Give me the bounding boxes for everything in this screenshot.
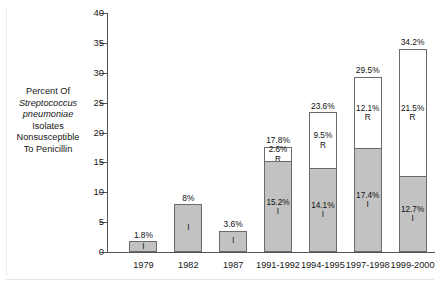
segment-percent: 12.7%	[400, 205, 426, 214]
segment-percent: 21.5%	[400, 103, 426, 112]
y-axis-title-line-4: Isolates	[2, 121, 94, 133]
chart-figure: Percent Of Streptococcus pneumoniae Isol…	[0, 0, 440, 282]
segment-code: R	[310, 140, 336, 149]
segment-percent: 9.5%	[310, 131, 336, 140]
segment-code: I	[175, 223, 201, 232]
y-axis-title-line-1: Percent Of	[2, 86, 94, 98]
y-tick-label: 0	[99, 246, 104, 257]
y-axis-title-line-6: To Penicillin	[2, 144, 94, 156]
bar-segment-i[interactable]: I	[129, 241, 157, 252]
segment-code: I	[220, 237, 246, 246]
y-axis-title: Percent Of Streptococcus pneumoniae Isol…	[2, 86, 94, 156]
segment-percent: 14.1%	[310, 200, 336, 209]
scan-edge-bottom	[6, 279, 434, 280]
segment-percent: 12.1%	[355, 103, 381, 112]
bar-1997-1998[interactable]: 29.5%12.1%R17.4%I	[354, 77, 382, 251]
y-axis-title-line-5: Nonsusceptible	[2, 132, 94, 144]
segment-value-label: 12.7%I	[400, 205, 426, 224]
bar-segment-i[interactable]: I	[174, 204, 202, 252]
y-tick-label: 15	[94, 156, 104, 167]
y-axis-title-line-3: pneumoniae	[2, 109, 94, 121]
bar-segment-i[interactable]: 14.1%I	[309, 168, 337, 252]
segment-value-label: I	[220, 237, 246, 246]
bar-segment-r[interactable]: 21.5%R	[399, 49, 427, 177]
bar-1979[interactable]: 1.8%I	[129, 241, 157, 251]
bar-total-label: 1.8%	[121, 230, 165, 240]
segment-code: R	[355, 113, 381, 122]
segment-percent: 15.2%	[265, 197, 291, 206]
y-tick-label: 30	[94, 67, 104, 78]
segment-code: I	[400, 214, 426, 223]
segment-value-label: 12.1%R	[355, 103, 381, 122]
bar-total-label: 17.8%	[256, 135, 300, 145]
y-tick-label: 40	[94, 7, 104, 18]
bar-total-label: 29.5%	[346, 65, 390, 75]
bar-segment-i[interactable]: 12.7%I	[399, 176, 427, 252]
bar-1987[interactable]: 3.6%I	[219, 231, 247, 252]
segment-value-label: 9.5%R	[310, 131, 336, 150]
bar-segment-i[interactable]: 17.4%I	[354, 148, 382, 252]
segment-value-label: 14.1%I	[310, 200, 336, 219]
bar-total-label: 8%	[166, 193, 210, 203]
segment-value-label: 21.5%R	[400, 103, 426, 122]
y-axis-title-line-2: Streptococcus	[2, 98, 94, 110]
segment-code: I	[130, 242, 156, 251]
bar-1994-1995[interactable]: 23.6%9.5%R14.1%I	[309, 112, 337, 251]
segment-code: I	[355, 200, 381, 209]
segment-code: R	[400, 113, 426, 122]
y-tick-label: 25	[94, 97, 104, 108]
plot-area: 4035302520151050 1.8%I8%I3.6%I17.8%2.6%R…	[107, 13, 435, 252]
bar-segment-i[interactable]: I	[219, 231, 247, 253]
y-tick-label: 35	[94, 37, 104, 48]
segment-percent: 2.6%	[265, 145, 291, 154]
bar-1999-2000[interactable]: 34.2%21.5%R12.7%I	[399, 49, 427, 251]
bar-segment-r[interactable]: 2.6%R	[264, 147, 292, 163]
segment-percent: 17.4%	[355, 191, 381, 200]
x-axis-line	[107, 252, 435, 253]
bar-segment-r[interactable]: 9.5%R	[309, 112, 337, 169]
bar-total-label: 23.6%	[301, 101, 345, 111]
y-tick-label: 10	[94, 186, 104, 197]
bar-segment-i[interactable]: 15.2%I	[264, 161, 292, 252]
segment-code: I	[310, 210, 336, 219]
segment-value-label: 17.4%I	[355, 191, 381, 210]
bar-1991-1992[interactable]: 17.8%2.6%R15.2%I	[264, 147, 292, 251]
y-tick-label: 5	[99, 216, 104, 227]
y-tick-label: 20	[94, 127, 104, 138]
segment-value-label: 15.2%I	[265, 197, 291, 216]
bar-segment-r[interactable]: 12.1%R	[354, 77, 382, 149]
bar-total-label: 34.2%	[391, 37, 435, 47]
segment-code: I	[265, 207, 291, 216]
segment-value-label: I	[175, 223, 201, 232]
x-tick-label-1999-2000: 1999-2000	[381, 260, 440, 270]
bar-total-label: 3.6%	[211, 219, 255, 229]
bar-1982[interactable]: 8%I	[174, 204, 202, 251]
y-axis-line	[107, 13, 108, 253]
segment-value-label: I	[130, 242, 156, 251]
